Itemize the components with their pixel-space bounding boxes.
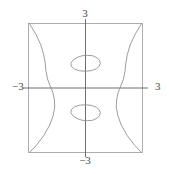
y-axis-negative-tick-label: −3 bbox=[79, 155, 91, 166]
x-axis-negative-tick-label: −3 bbox=[12, 81, 24, 92]
implicit-plot-figure: 3 −3 −3 3 bbox=[0, 0, 169, 174]
plot-canvas bbox=[0, 0, 169, 174]
y-axis-positive-tick-label: 3 bbox=[82, 8, 88, 19]
x-axis-positive-tick-label: 3 bbox=[155, 81, 161, 92]
